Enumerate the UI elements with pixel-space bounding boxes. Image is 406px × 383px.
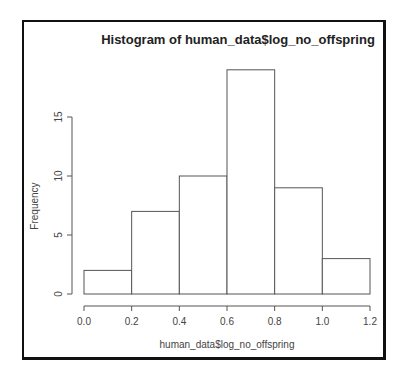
histogram-bar <box>132 211 180 294</box>
x-tick-label: 0.8 <box>268 316 282 327</box>
y-tick-label: 10 <box>53 170 64 182</box>
histogram-bar <box>179 176 227 294</box>
histogram-bar <box>322 259 370 294</box>
y-tick-label: 0 <box>53 291 64 297</box>
histogram-bar <box>227 70 275 294</box>
y-tick-label: 5 <box>53 232 64 238</box>
y-axis-label: Frequency <box>29 182 40 229</box>
x-axis-label: human_data$log_no_offspring <box>160 339 295 350</box>
x-tick-label: 0.6 <box>220 316 234 327</box>
y-axis: 051015 <box>53 111 72 297</box>
x-tick-label: 1.2 <box>363 316 377 327</box>
x-tick-label: 1.0 <box>315 316 329 327</box>
histogram-bars <box>84 70 370 294</box>
x-tick-label: 0.0 <box>77 316 91 327</box>
y-tick-label: 15 <box>53 111 64 123</box>
histogram-bar <box>84 270 132 294</box>
x-tick-label: 0.2 <box>125 316 139 327</box>
histogram-bar <box>275 188 323 294</box>
histogram-chart: Histogram of human_data$log_no_offspring… <box>0 0 406 383</box>
x-tick-label: 0.4 <box>172 316 186 327</box>
x-axis: 0.00.20.40.60.81.01.2 <box>77 306 377 327</box>
chart-title: Histogram of human_data$log_no_offspring <box>101 32 375 47</box>
